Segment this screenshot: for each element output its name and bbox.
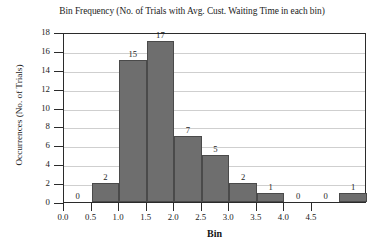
chart-title: Bin Frequency (No. of Trials with Avg. C… — [0, 5, 384, 17]
bar-value-label: 7 — [174, 125, 202, 135]
bar-slot: 0 — [64, 34, 92, 202]
bar-value-label: 0 — [64, 191, 92, 201]
x-axis-tick — [118, 203, 119, 211]
bar — [202, 155, 230, 202]
x-axis-tick — [91, 203, 92, 211]
x-axis-tick-label: 4.5 — [293, 212, 329, 222]
x-axis-tick — [283, 203, 284, 211]
x-axis-tick — [256, 203, 257, 211]
plot-area: 0215177521001 — [63, 33, 366, 203]
bar-value-label: 17 — [147, 30, 175, 40]
x-axis-tick — [173, 203, 174, 211]
bar — [229, 183, 257, 202]
y-axis-tick — [54, 109, 63, 110]
bar-value-label: 5 — [202, 144, 230, 154]
bar — [174, 136, 202, 202]
y-axis-tick-label: 6 — [8, 141, 50, 150]
bar-chart-figure: Bin Frequency (No. of Trials with Avg. C… — [0, 0, 384, 250]
x-axis-tick — [201, 203, 202, 211]
bar — [257, 193, 285, 202]
bar-slot: 17 — [147, 34, 175, 202]
bar-value-label: 1 — [257, 182, 285, 192]
bar-value-label: 2 — [92, 172, 120, 182]
y-axis-tick — [54, 203, 63, 204]
y-axis-tick-label: 16 — [8, 47, 50, 56]
bar — [92, 183, 120, 202]
x-axis-title: Bin — [63, 228, 366, 239]
y-axis-tick — [54, 146, 63, 147]
y-axis-tick-label: 0 — [8, 198, 50, 207]
x-axis-tick — [63, 203, 64, 211]
bar-slot: 1 — [257, 34, 285, 202]
bar-slot: 0 — [312, 34, 340, 202]
bar-value-label: 1 — [339, 182, 367, 192]
y-axis-tick-label: 4 — [8, 160, 50, 169]
bar-series: 0215177521001 — [64, 34, 365, 202]
x-axis-tick — [146, 203, 147, 211]
y-axis-tick — [54, 90, 63, 91]
bar — [119, 60, 147, 202]
bar — [147, 41, 175, 202]
x-axis-tick — [228, 203, 229, 211]
bar-slot: 15 — [119, 34, 147, 202]
bar-slot: 0 — [284, 34, 312, 202]
bar-value-label: 2 — [229, 172, 257, 182]
bar-slot: 2 — [92, 34, 120, 202]
bar-slot: 1 — [339, 34, 367, 202]
y-axis-tick-label: 18 — [8, 28, 50, 37]
y-axis-tick — [54, 165, 63, 166]
y-axis-tick-label: 14 — [8, 66, 50, 75]
bar-value-label: 15 — [119, 49, 147, 59]
x-axis-tick — [311, 203, 312, 211]
bar-slot: 7 — [174, 34, 202, 202]
y-axis-tick — [54, 71, 63, 72]
bar-slot: 2 — [229, 34, 257, 202]
y-axis-tick — [54, 127, 63, 128]
bar — [339, 193, 367, 202]
y-axis-tick-label: 2 — [8, 179, 50, 188]
y-axis-tick-label: 12 — [8, 85, 50, 94]
y-axis-tick-label: 10 — [8, 104, 50, 113]
bar-slot: 5 — [202, 34, 230, 202]
bar-value-label: 0 — [312, 191, 340, 201]
y-axis-tick — [54, 184, 63, 185]
bar-value-label: 0 — [284, 191, 312, 201]
y-axis-tick — [54, 33, 63, 34]
y-axis-tick-label: 8 — [8, 122, 50, 131]
y-axis-tick — [54, 52, 63, 53]
